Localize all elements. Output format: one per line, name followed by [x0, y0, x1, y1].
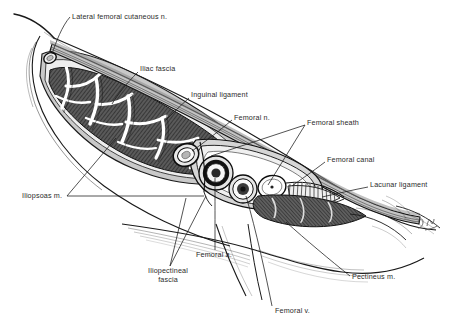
femoral-vein-section [229, 175, 257, 203]
label-iliopectineal-fascia: Iliopectineal fascia [140, 266, 196, 284]
label-lacunar-ligament: Lacunar ligament [370, 180, 427, 189]
label-femoral-canal: Femoral canal [327, 155, 374, 164]
label-iliopsoas-m: Iliopsoas m. [22, 191, 62, 200]
label-femoral-n: Femoral n. [234, 113, 270, 122]
label-iliac-fascia: Iliac fascia [140, 64, 175, 73]
label-femoral-a: Femoral a. [196, 250, 232, 259]
leader-iliopsoas-b [67, 138, 116, 196]
label-femoral-v: Femoral v. [275, 306, 310, 315]
label-pectineus-m: Pectineus m. [352, 272, 395, 281]
label-inguinal-ligament: Inguinal ligament [191, 90, 248, 99]
label-femoral-sheath: Femoral sheath [307, 118, 359, 127]
femoral-region-illustration [0, 0, 449, 333]
figure-canvas: Lateral femoral cutaneous n. Iliac fasci… [0, 0, 449, 333]
label-lateral-femoral-cutaneous-n: Lateral femoral cutaneous n. [72, 12, 167, 21]
